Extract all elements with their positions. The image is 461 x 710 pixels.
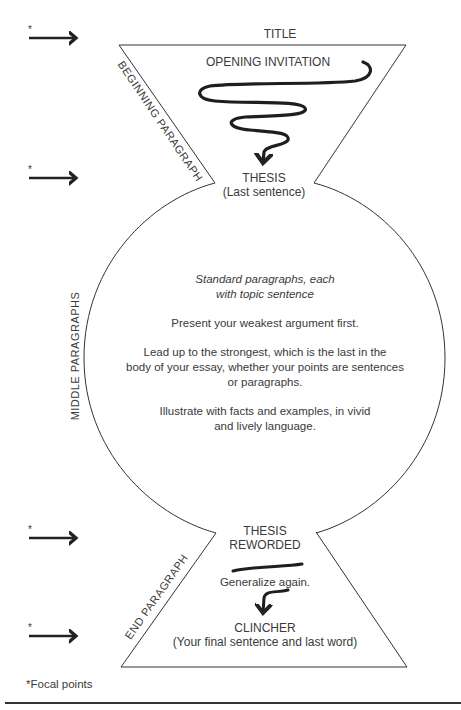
thesis-label: THESIS bbox=[242, 171, 285, 185]
middle-point-illustrate-line2: and lively language. bbox=[214, 419, 316, 434]
thesis-reworded-line1: THESIS bbox=[243, 524, 286, 538]
middle-point-strongest-line1: Lead up to the strongest, which is the l… bbox=[144, 345, 387, 360]
thesis-reworded-line2: REWORDED bbox=[229, 538, 300, 552]
clincher-note: (Your final sentence and last word) bbox=[173, 635, 357, 649]
middle-intro-line1: Standard paragraphs, each bbox=[195, 272, 334, 287]
middle-point-strongest-line2: body of your essay, whether your points … bbox=[126, 360, 404, 375]
footnote-focal-points: *Focal points bbox=[26, 677, 92, 691]
funnel-squiggle-arrow-icon bbox=[200, 62, 371, 163]
title-label: TITLE bbox=[264, 27, 297, 41]
clincher-label: CLINCHER bbox=[234, 621, 295, 635]
opening-invitation-label: OPENING INVITATION bbox=[206, 55, 330, 69]
reword-swoosh-icon bbox=[233, 564, 302, 571]
clincher-hook-arrow-icon bbox=[263, 590, 288, 613]
thesis-note: (Last sentence) bbox=[223, 185, 306, 199]
focal-asterisk: * bbox=[28, 164, 32, 175]
focal-asterisk: * bbox=[28, 24, 32, 35]
middle-point-illustrate-line1: Illustrate with facts and examples, in v… bbox=[160, 404, 371, 419]
bottom-rule-divider bbox=[5, 702, 461, 704]
generalize-again-label: Generalize again. bbox=[220, 575, 310, 590]
focal-asterisk: * bbox=[28, 622, 32, 633]
focal-asterisk: * bbox=[28, 524, 32, 535]
middle-paragraphs-side-label: MIDDLE PARAGRAPHS bbox=[69, 291, 81, 421]
middle-point-strongest-line3: or paragraphs. bbox=[228, 375, 303, 390]
middle-intro-line2: with topic sentence bbox=[216, 287, 314, 302]
middle-point-weakest: Present your weakest argument first. bbox=[171, 316, 358, 331]
